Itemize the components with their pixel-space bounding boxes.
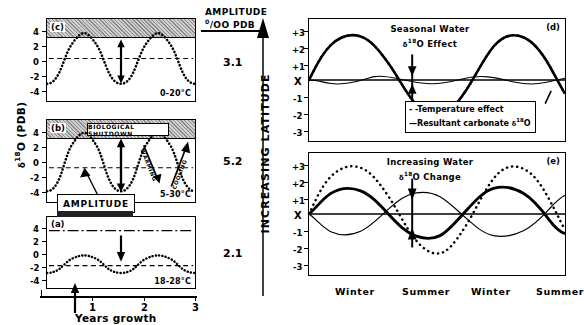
panel-e-label: (e) [545, 156, 561, 166]
x-axis-tick-2 [144, 296, 145, 301]
tickmark [42, 162, 46, 163]
x-axis-title: Years growth [75, 312, 157, 324]
panel-e-ytick-p2: +2 [292, 179, 305, 189]
panel-e-ytick-p3: +3 [292, 162, 305, 172]
panel-a-ytick-m2: -2 [30, 264, 39, 273]
x-axis-tick-origin [41, 290, 42, 296]
tickmark [42, 228, 46, 229]
panel-d-ytick-p1: +1 [292, 62, 305, 72]
tickmark [42, 241, 46, 242]
tickmark [304, 265, 308, 266]
amplitude-header-line1: AMPLITUDE [205, 7, 267, 17]
tickmark [304, 97, 308, 98]
panel-a-ytick-4: 4 [33, 225, 39, 234]
panel-d-ytick-m2: -2 [293, 111, 302, 121]
tickmark [304, 165, 308, 166]
tickmark [304, 114, 308, 115]
season-label-winter-2: Winter [471, 286, 511, 297]
x-axis-tick-3 [195, 296, 196, 301]
tickmark [42, 177, 46, 178]
panel-d-ytick-x: X [294, 76, 302, 87]
amplitude-value-c: 3.1 [223, 56, 243, 69]
panel-a-ytick-2: 2 [33, 238, 39, 247]
panel-b-ytick-m2: -2 [30, 174, 39, 183]
panel-d-legend: - -Temperature effect —Resultant carbona… [405, 101, 536, 133]
panel-c-ytick-4: 4 [33, 28, 39, 37]
panel-b-band-label: BIOLOGICAL SHUTDOWN [87, 123, 169, 136]
panel-e: (e) Increasing Water δ18O Change [308, 152, 566, 276]
tickmark [42, 254, 46, 255]
amplitude-value-a: 2.1 [223, 247, 243, 260]
panel-e-ytick-m1: -1 [293, 228, 302, 238]
panel-a-ytick-0: 0 [33, 251, 39, 260]
amplitude-header-line2: 0/OO PDB [205, 20, 255, 30]
tickmark [42, 91, 46, 92]
amplitude-callout-underline [57, 211, 133, 217]
tickmark [304, 65, 308, 66]
panel-b-temp-range: 5-30°C [160, 190, 191, 199]
amplitude-value-b: 5.2 [223, 155, 243, 168]
amplitude-header-rule [201, 30, 263, 32]
tickmark [304, 48, 308, 49]
panel-d-ytick-p2: +2 [292, 45, 305, 55]
panel-d-label: (d) [545, 22, 561, 32]
tickmark [42, 147, 46, 148]
panel-a-ytick-m4: -4 [30, 277, 39, 286]
panel-e-title-line2: δ18O Change [399, 172, 461, 182]
panel-c-tickmarks [42, 31, 46, 32]
season-label-winter-1: Winter [335, 286, 375, 297]
tickmark [304, 131, 308, 132]
panel-b: (b) BIOLOGICAL SHUTDOWN 5-30°C WARMING C… [46, 119, 196, 203]
panel-e-ytick-m2: -2 [293, 245, 302, 255]
tickmark [304, 31, 308, 32]
panel-d-ytick-m1: -1 [293, 94, 302, 104]
tickmark [42, 76, 46, 77]
season-label-summer-2: Summer [536, 286, 584, 297]
panel-e-title: Increasing Water δ18O Change [365, 156, 495, 184]
panel-c-ytick-m2: -2 [30, 73, 39, 82]
amplitude-callout-label: AMPLITUDE [63, 199, 129, 209]
panel-d: (d) Seasonal Water δ18O Effect - -Temper… [308, 18, 566, 142]
panel-d-title-line2: δ18O Effect [403, 39, 457, 49]
panel-d-title: Seasonal Water δ18O Effect [365, 23, 495, 51]
tickmark [304, 182, 308, 183]
panel-a: (a) 18-28°C [46, 216, 196, 289]
panel-a-temp-range: 18-28°C [154, 277, 191, 286]
tickmark [42, 280, 46, 281]
tickmark [42, 61, 46, 62]
panel-e-ytick-p1: +1 [292, 196, 305, 206]
panel-d-ytick-m3: -3 [293, 128, 302, 138]
legend-item-carbonate: —Resultant carbonate δ18O [409, 115, 531, 130]
x-axis-tick-1 [92, 296, 93, 301]
panel-c: (c) 0-20°C [46, 18, 196, 102]
panel-b-label: (b) [50, 123, 66, 133]
tickmark [42, 192, 46, 193]
legend-item-temperature: - -Temperature effect [409, 104, 531, 115]
season-label-summer-1: Summer [402, 286, 450, 297]
panel-d-ytick-p3: +3 [292, 28, 305, 38]
panel-b-ytick-4: 4 [33, 129, 39, 138]
panel-d-title-line1: Seasonal Water [390, 24, 469, 34]
panel-e-ytick-x: X [294, 210, 302, 221]
panel-c-ytick-0: 0 [33, 58, 39, 67]
panel-b-ytick-2: 2 [33, 144, 39, 153]
panel-a-up-arrow [66, 283, 86, 313]
panel-b-ytick-0: 0 [33, 159, 39, 168]
panel-e-ytick-m3: -3 [293, 262, 302, 272]
tickmark [42, 46, 46, 47]
tickmark [42, 132, 46, 133]
panel-c-temp-range: 0-20°C [160, 89, 191, 98]
panel-c-ytick-2: 2 [33, 43, 39, 52]
tickmark [304, 248, 308, 249]
y-axis-title: δ18O (PDB) [13, 89, 27, 181]
tickmark [304, 231, 308, 232]
tickmark [42, 267, 46, 268]
panel-c-ytick-m4: -4 [30, 88, 39, 97]
tickmark [304, 199, 308, 200]
x-tick-label-3: 3 [192, 302, 199, 313]
increasing-latitude-label: INCREASING LATITUDE [259, 84, 272, 234]
panel-a-label: (a) [50, 219, 66, 229]
x-axis-line [40, 296, 197, 298]
panel-b-ytick-m4: -4 [30, 189, 39, 198]
